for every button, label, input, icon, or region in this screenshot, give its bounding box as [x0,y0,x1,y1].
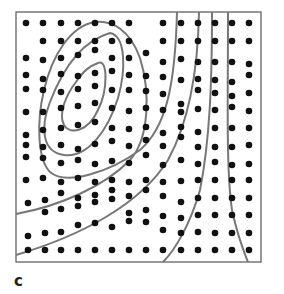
contour-vertical-curve-1 [163,12,212,262]
grid-dot [92,20,99,27]
grid-dot [195,20,202,27]
grid-dot [40,57,47,64]
grid-dot [40,76,47,83]
grid-dot [212,212,219,219]
grid-dot [246,177,253,184]
grid-dot [58,55,65,62]
grid-dot [229,177,236,184]
grid-dot [212,125,219,132]
grid-dot [92,141,99,148]
grid-dot [58,125,65,132]
grid-dot [75,222,82,229]
grid-dot [143,207,150,214]
grid-dot [195,212,202,219]
grid-dot [178,247,185,254]
grid-dot [212,144,219,151]
grid-dot [109,38,116,45]
grid-dot [246,61,253,68]
contour-vertical-curve-2 [228,12,248,262]
grid-dot [92,247,99,254]
grid-dot [92,83,99,90]
grid-dot [195,247,202,254]
grid-dot [126,108,133,115]
grid-dot [126,210,133,217]
contour-middle-ellipse [44,33,123,155]
grid-dot [143,137,150,144]
grid-dot [126,247,133,254]
grid-dot [23,154,30,161]
grid-dot [40,87,47,94]
grid-dot [160,20,167,27]
grid-dot [212,38,219,45]
grid-dot [229,79,236,86]
grid-dot [229,20,236,27]
grid-dot [42,209,49,216]
grid-dot [212,247,219,254]
grid-dot [58,247,65,254]
grid-dot [178,124,185,131]
grid-dot [143,50,150,57]
grid-dot [195,129,202,136]
grid-dot [109,196,116,203]
panel-label: c [14,272,23,290]
grid-dot [143,88,150,95]
grid-dot [126,72,133,79]
grid-dot [229,230,236,237]
grid-dot [75,203,82,210]
grid-dot [229,104,236,111]
grid-dot [160,162,167,169]
grid-dot [58,71,65,78]
grid-dot [195,59,202,66]
grid-dot [58,190,65,197]
grid-dot [229,59,236,66]
grid-dot [109,187,116,194]
grid-dot [75,73,82,80]
grid-dot [75,175,82,182]
grid-dot [109,138,116,145]
grid-dot [40,175,47,182]
plot-frame [16,12,261,262]
grid-dot [195,177,202,184]
grid-dot [178,56,185,63]
grid-dot [109,247,116,254]
grid-dot [212,59,219,66]
grid-dot [160,227,167,234]
grid-dot [195,161,202,168]
grid-dot [178,199,185,206]
grid-dot [92,38,99,45]
grid-dot [58,160,65,167]
grid-dot [40,155,47,162]
grid-dot [42,197,49,204]
grid-dot [126,87,133,94]
grid-dot [42,247,49,254]
grid-dot [160,74,167,81]
grid-dot [25,247,32,254]
grid-dot [160,91,167,98]
grid-dot [126,38,133,45]
grid-dot [92,70,99,77]
grid-dot [212,77,219,84]
grid-dot [40,109,47,116]
grid-dot [126,160,133,167]
grid-dot [23,72,30,79]
grid-dot [160,179,167,186]
grid-dot [246,38,253,45]
grid-dot [75,20,82,27]
grid-dot [246,72,253,79]
grid-dot [195,195,202,202]
grid-dot [109,20,116,27]
grid-dot [195,38,202,45]
grid-dot [109,224,116,231]
grid-dot [126,126,133,133]
grid-dot [212,230,219,237]
grid-dot [92,47,99,54]
grid-dot [92,119,99,126]
grid-dot [23,142,30,149]
grid-dot [160,107,167,114]
grid-dot [109,158,116,165]
grid-dot [92,179,99,186]
grid-dot [58,38,65,45]
grid-dot [143,247,150,254]
grid-dot [75,195,82,202]
contour-lines [16,12,248,262]
